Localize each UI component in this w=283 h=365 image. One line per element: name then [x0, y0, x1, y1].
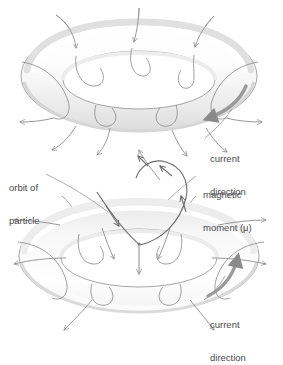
label-current-direction-bottom: current direction [210, 297, 246, 365]
magnetic-moment-label-leader-line [168, 176, 196, 200]
label-orbit-of-particle: orbit of particle [9, 160, 40, 248]
label-orbit-of-particle-line1: orbit of [9, 182, 40, 193]
label-current-direction-top-line1: current [210, 153, 246, 164]
upper-field-arrow-upward [139, 150, 160, 180]
label-orbit-of-particle-line2: particle [9, 215, 40, 226]
upper-torus-body [21, 21, 257, 131]
label-current-direction-bottom-line2: direction [210, 352, 246, 363]
label-magnetic-moment-line2: moment (μ) [203, 222, 252, 233]
label-magnetic-moment-line1: magnetic [203, 189, 252, 200]
label-current-direction-bottom-line1: current [210, 319, 246, 330]
label-magnetic-moment: magnetic moment (μ) [203, 167, 252, 255]
